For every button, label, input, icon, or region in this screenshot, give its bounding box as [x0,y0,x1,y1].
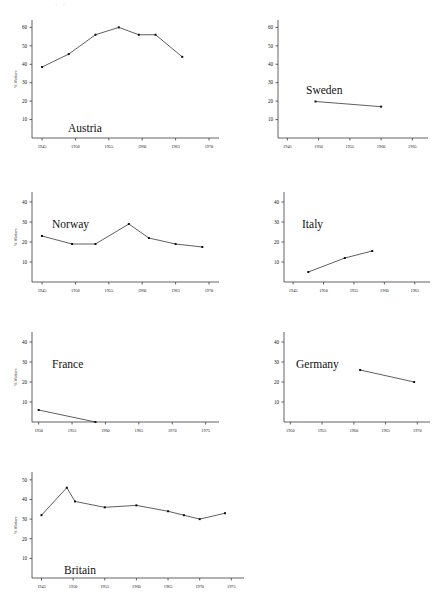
chart-panel-italy: 1020304019451950195519601965Italy [258,184,440,306]
data-point-marker [68,53,70,55]
x-tick-label: 1965 [135,428,144,433]
data-point-marker [135,504,137,506]
data-line-germany [360,370,414,382]
y-tick-label: 60 [268,24,274,30]
chart-panel-sweden: 10203040506019451950195519601965Sweden [248,14,438,164]
y-tick-label: 50 [22,43,28,49]
x-tick-label: 1955 [318,428,327,433]
data-point-marker [128,223,130,225]
data-point-marker [66,487,68,489]
x-tick-label: 1945 [289,288,298,293]
x-tick-label: 1970 [205,144,214,149]
data-point-marker [40,514,42,516]
chart-panel-norway: 10203040194519501955196019651970% Worker… [6,184,231,306]
y-axis-label: % Workers [14,516,18,533]
data-point-marker [94,34,96,36]
x-tick-label: 1945 [38,144,47,149]
y-tick-label: 30 [22,359,28,365]
chart-title-sweden: Sweden [306,84,343,96]
y-axis-label: % Workers [14,228,18,245]
y-tick-label: 30 [274,359,280,365]
data-point-marker [138,34,140,36]
x-tick-label: 1970 [195,584,204,589]
x-tick-label: 1965 [171,144,180,149]
data-point-marker [41,235,43,237]
chart-svg-germany: 1020304019501955196019651970Germany [258,324,440,446]
x-tick-label: 1965 [410,288,419,293]
data-point-marker [155,34,157,36]
data-point-marker [175,243,177,245]
x-tick-label: 1950 [69,584,78,589]
chart-title-france: France [52,358,83,370]
x-tick-label: 1970 [205,288,214,293]
data-point-marker [371,250,373,252]
chart-svg-norway: 10203040194519501955196019651970% Worker… [6,184,231,306]
chart-svg-sweden: 10203040506019451950195519601965Sweden [248,14,438,164]
data-line-austria [42,27,182,67]
chart-axes-sweden [278,20,428,138]
y-tick-label: 10 [268,116,274,122]
y-tick-label: 10 [22,259,28,265]
data-point-marker [307,271,309,273]
data-line-britain [41,488,225,519]
x-tick-label: 1960 [101,428,110,433]
data-point-marker [41,66,43,68]
data-point-marker [224,512,226,514]
x-tick-label: 1950 [286,428,295,433]
data-point-marker [104,506,106,508]
chart-title-britain: Britain [64,564,96,576]
x-tick-label: 1965 [171,288,180,293]
y-tick-label: 20 [274,379,280,385]
data-point-marker [94,243,96,245]
data-point-marker [118,26,120,28]
y-tick-label: 40 [22,61,28,67]
x-tick-label: 1955 [68,428,77,433]
y-tick-label: 10 [274,259,280,265]
x-tick-label: 1965 [381,428,390,433]
x-tick-label: 1945 [283,144,292,149]
y-tick-label: 10 [274,399,280,405]
y-tick-label: 20 [22,239,28,245]
x-tick-label: 1955 [350,288,359,293]
x-tick-label: 1960 [138,288,147,293]
y-tick-label: 20 [22,98,28,104]
chart-panel-germany: 1020304019501955196019651970Germany [258,324,440,446]
chart-panel-austria: 102030405060194519501955196019651970% Wo… [6,14,231,164]
y-tick-label: 30 [22,219,28,225]
data-point-marker [38,409,40,411]
x-tick-label: 1945 [38,288,47,293]
data-point-marker [71,243,73,245]
y-tick-label: 50 [268,43,274,49]
chart-svg-italy: 1020304019451950195519601965Italy [258,184,440,306]
y-tick-label: 60 [22,24,28,30]
data-point-marker [380,106,382,108]
data-line-sweden [316,101,382,106]
data-point-marker [94,421,96,423]
x-tick-label: 1960 [138,144,147,149]
chart-axes-norway [32,192,219,282]
data-point-marker [148,237,150,239]
chart-panel-britain: 10203040501945195019551960196519701975% … [6,464,256,604]
x-tick-label: 1960 [350,428,359,433]
data-point-marker [181,56,183,58]
x-tick-label: 1975 [201,428,210,433]
chart-title-austria: Austria [68,122,102,134]
x-tick-label: 1960 [380,288,389,293]
y-axis-label: % Workers [14,70,18,87]
data-point-marker [344,257,346,259]
data-point-marker [74,500,76,502]
x-tick-label: 1955 [346,144,355,149]
chart-title-italy: Italy [302,218,323,231]
y-tick-label: 40 [22,339,28,345]
y-tick-label: 40 [268,61,274,67]
y-tick-label: 30 [274,219,280,225]
chart-svg-britain: 10203040501945195019551960196519701975% … [6,464,256,604]
y-tick-label: 20 [268,98,274,104]
data-line-italy [308,251,372,272]
x-tick-label: 1950 [319,288,328,293]
x-tick-label: 1965 [164,584,173,589]
data-point-marker [359,369,361,371]
chart-axes-austria [32,20,219,138]
chart-axes-france [32,332,219,422]
y-tick-label: 30 [268,79,274,85]
